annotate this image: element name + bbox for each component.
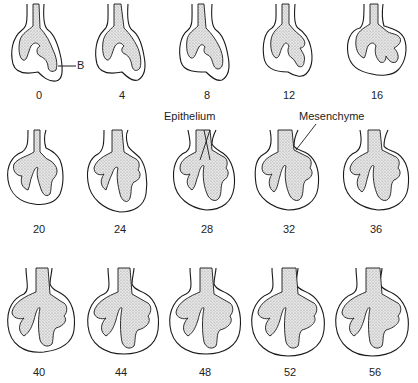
panel-44-drawing — [88, 268, 159, 354]
panel-label-52: 52 — [270, 366, 310, 378]
panel-0-drawing — [12, 4, 76, 81]
panel-56-drawing — [336, 268, 409, 356]
panel-28-drawing — [174, 130, 235, 210]
panel-label-12: 12 — [269, 89, 309, 101]
panel-label-56: 56 — [355, 366, 395, 378]
panel-48-drawing — [170, 268, 241, 354]
panel-label-8: 8 — [187, 89, 227, 101]
diagram-canvas — [0, 0, 418, 383]
panel-label-44: 44 — [101, 366, 141, 378]
panel-16-drawing — [348, 4, 407, 75]
panel-24-drawing — [87, 130, 146, 212]
panel-label-4: 4 — [102, 89, 142, 101]
panel-label-48: 48 — [185, 366, 225, 378]
epithelium-annotation-label: Epithelium — [164, 110, 215, 122]
panel-8-drawing — [180, 4, 229, 80]
panel-4-drawing — [96, 4, 145, 80]
panel-40-drawing — [8, 268, 75, 352]
panel-label-40: 40 — [19, 366, 59, 378]
panel-label-36: 36 — [356, 223, 396, 235]
panel-32-drawing — [255, 124, 318, 210]
mesenchyme-annotation-label: Mesenchyme — [299, 110, 364, 122]
panel-label-16: 16 — [357, 89, 397, 101]
panel-36-drawing — [344, 130, 409, 210]
panel-label-20: 20 — [19, 223, 59, 235]
panel-label-24: 24 — [100, 223, 140, 235]
panel-label-32: 32 — [269, 223, 309, 235]
bud-annotation-label: B — [77, 59, 84, 71]
panel-20-drawing — [8, 130, 63, 205]
panel-label-28: 28 — [187, 223, 227, 235]
panel-label-0: 0 — [19, 89, 59, 101]
panel-52-drawing — [252, 268, 325, 356]
panel-12-drawing — [263, 4, 312, 76]
